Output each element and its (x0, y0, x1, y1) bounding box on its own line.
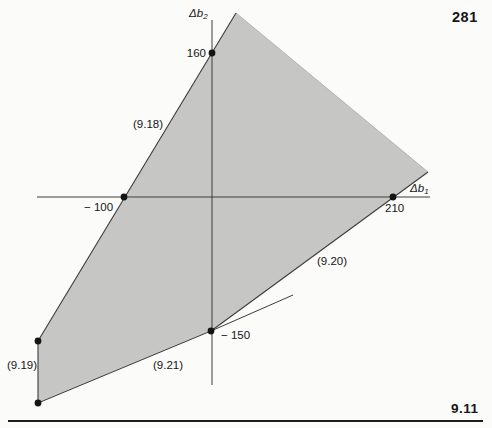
page-number: 281 (452, 9, 478, 25)
point-neg-150-icon (208, 328, 215, 335)
point-neg-100-icon (121, 194, 128, 201)
y-axis-label: Δb2 (189, 7, 208, 23)
point-160-icon (209, 50, 216, 57)
label-line-9-18: (9.18) (133, 118, 163, 130)
point-210-icon (390, 194, 397, 201)
region-plot-svg (0, 0, 492, 428)
label-160: 160 (178, 47, 206, 59)
point-left-upper-icon (35, 338, 42, 345)
label-210: 210 (385, 202, 404, 214)
x-axis-label: Δb1 (410, 182, 429, 198)
label-neg-100: − 100 (84, 201, 113, 213)
label-line-9-21: (9.21) (153, 359, 183, 371)
label-line-9-20: (9.20) (317, 255, 347, 267)
label-neg-150: − 150 (221, 329, 250, 341)
book-page: Δb2 Δb1 160 − 100 210 − 150 (9.18) (9.19… (0, 0, 492, 428)
figure-number: 9.11 (451, 401, 479, 416)
footer-rule (8, 420, 483, 422)
label-line-9-19: (9.19) (7, 359, 37, 371)
point-left-lower-icon (35, 400, 42, 407)
